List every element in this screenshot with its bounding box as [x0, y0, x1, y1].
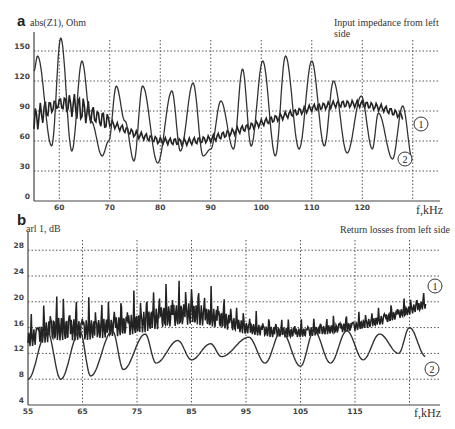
panel-b-series: [28, 281, 426, 380]
panel-a-curve-2-label: 2: [398, 152, 412, 166]
svg-text:1: 1: [433, 281, 438, 292]
svg-text:1: 1: [419, 119, 424, 130]
panel-a-series: [34, 38, 412, 163]
chart-canvas: 1212: [0, 0, 455, 429]
svg-text:2: 2: [403, 154, 408, 165]
panel-a-curve-1-label: 1: [414, 117, 428, 131]
svg-text:2: 2: [430, 364, 435, 375]
panel-b-curve-1-label: 1: [428, 279, 442, 293]
panel-b-curve-2-label: 2: [425, 362, 439, 376]
